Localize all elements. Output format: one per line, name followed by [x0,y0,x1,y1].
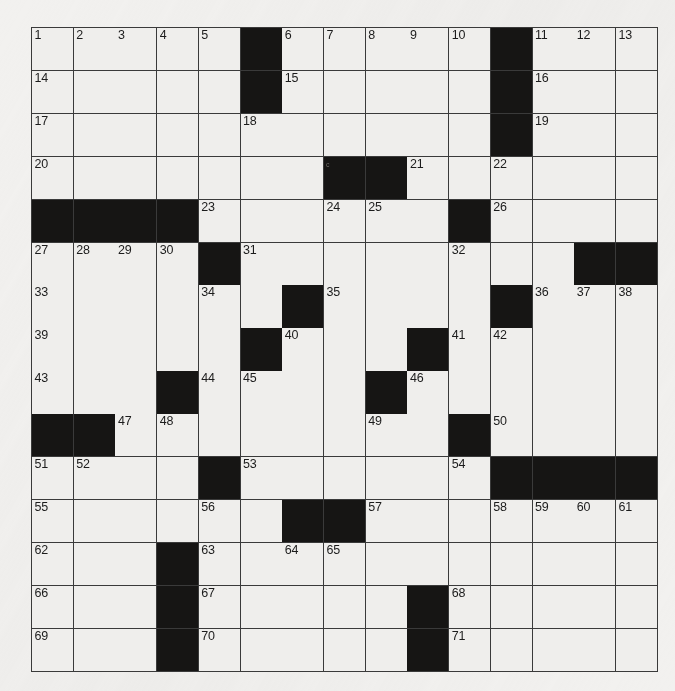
crossword-cell[interactable] [199,114,240,156]
crossword-cell[interactable]: 62 [32,543,73,585]
crossword-cell[interactable] [324,71,365,113]
crossword-cell[interactable] [74,285,115,327]
crossword-cell[interactable]: 25 [366,200,407,242]
crossword-cell[interactable] [533,414,574,456]
crossword-cell[interactable] [115,543,156,585]
crossword-cell[interactable] [533,371,574,413]
crossword-cell[interactable] [324,371,365,413]
crossword-cell[interactable] [74,71,115,113]
crossword-cell[interactable]: 70 [199,629,240,671]
crossword-cell[interactable] [491,371,532,413]
crossword-cell[interactable] [74,586,115,628]
crossword-cell[interactable] [449,285,490,327]
crossword-cell[interactable] [449,543,490,585]
crossword-cell[interactable] [616,157,657,199]
crossword-cell[interactable]: 67 [199,586,240,628]
crossword-cell[interactable]: 4 [157,28,198,70]
crossword-cell[interactable] [449,371,490,413]
crossword-cell[interactable]: 32 [449,243,490,285]
crossword-grid[interactable]: 1234567891011121314151617181920c21222324… [31,27,658,672]
crossword-cell[interactable] [616,629,657,671]
crossword-cell[interactable] [574,200,615,242]
crossword-cell[interactable] [574,71,615,113]
crossword-cell[interactable] [574,543,615,585]
crossword-cell[interactable] [241,543,282,585]
crossword-cell[interactable] [241,586,282,628]
crossword-cell[interactable]: 18 [241,114,282,156]
crossword-cell[interactable]: 20 [32,157,73,199]
crossword-cell[interactable] [199,71,240,113]
crossword-cell[interactable] [115,371,156,413]
crossword-cell[interactable]: 3 [115,28,156,70]
crossword-cell[interactable]: 37 [574,285,615,327]
crossword-cell[interactable] [533,328,574,370]
crossword-cell[interactable] [616,71,657,113]
crossword-cell[interactable] [366,285,407,327]
crossword-cell[interactable] [282,457,323,499]
crossword-cell[interactable] [407,114,448,156]
crossword-cell[interactable] [157,328,198,370]
crossword-cell[interactable]: 7 [324,28,365,70]
crossword-cell[interactable] [324,457,365,499]
crossword-cell[interactable]: 68 [449,586,490,628]
crossword-cell[interactable] [366,71,407,113]
crossword-cell[interactable]: 1 [32,28,73,70]
crossword-cell[interactable]: 40 [282,328,323,370]
crossword-cell[interactable] [282,414,323,456]
crossword-cell[interactable]: 55 [32,500,73,542]
crossword-cell[interactable]: 23 [199,200,240,242]
crossword-cell[interactable] [157,500,198,542]
crossword-cell[interactable] [574,629,615,671]
crossword-cell[interactable] [449,500,490,542]
crossword-cell[interactable]: 15 [282,71,323,113]
crossword-cell[interactable]: 5 [199,28,240,70]
crossword-cell[interactable] [366,543,407,585]
crossword-cell[interactable] [74,371,115,413]
crossword-cell[interactable]: 12 [574,28,615,70]
crossword-cell[interactable] [282,200,323,242]
crossword-cell[interactable] [366,114,407,156]
crossword-cell[interactable]: 43 [32,371,73,413]
crossword-cell[interactable] [74,328,115,370]
crossword-cell[interactable]: 53 [241,457,282,499]
crossword-cell[interactable]: 26 [491,200,532,242]
crossword-cell[interactable]: 45 [241,371,282,413]
crossword-cell[interactable] [282,114,323,156]
crossword-cell[interactable]: 22 [491,157,532,199]
crossword-cell[interactable] [407,457,448,499]
crossword-cell[interactable] [574,371,615,413]
crossword-cell[interactable]: 10 [449,28,490,70]
crossword-cell[interactable] [115,114,156,156]
crossword-cell[interactable] [241,629,282,671]
crossword-cell[interactable] [157,285,198,327]
crossword-cell[interactable] [366,457,407,499]
crossword-cell[interactable] [115,328,156,370]
crossword-cell[interactable] [74,543,115,585]
crossword-cell[interactable] [241,414,282,456]
crossword-cell[interactable] [115,157,156,199]
crossword-cell[interactable] [533,586,574,628]
crossword-cell[interactable] [115,71,156,113]
crossword-cell[interactable] [324,243,365,285]
crossword-cell[interactable] [115,457,156,499]
crossword-cell[interactable]: 8 [366,28,407,70]
crossword-cell[interactable] [616,586,657,628]
crossword-cell[interactable] [74,629,115,671]
crossword-cell[interactable]: 60 [574,500,615,542]
crossword-cell[interactable] [616,114,657,156]
crossword-cell[interactable] [533,629,574,671]
crossword-cell[interactable]: 48 [157,414,198,456]
crossword-cell[interactable]: 58 [491,500,532,542]
crossword-cell[interactable] [115,586,156,628]
crossword-cell[interactable]: 61 [616,500,657,542]
crossword-cell[interactable] [282,586,323,628]
crossword-cell[interactable]: 66 [32,586,73,628]
crossword-cell[interactable]: 36 [533,285,574,327]
crossword-cell[interactable] [616,328,657,370]
crossword-cell[interactable]: 69 [32,629,73,671]
crossword-cell[interactable]: 34 [199,285,240,327]
crossword-cell[interactable] [574,114,615,156]
crossword-cell[interactable] [324,328,365,370]
crossword-cell[interactable] [407,71,448,113]
crossword-cell[interactable] [533,200,574,242]
